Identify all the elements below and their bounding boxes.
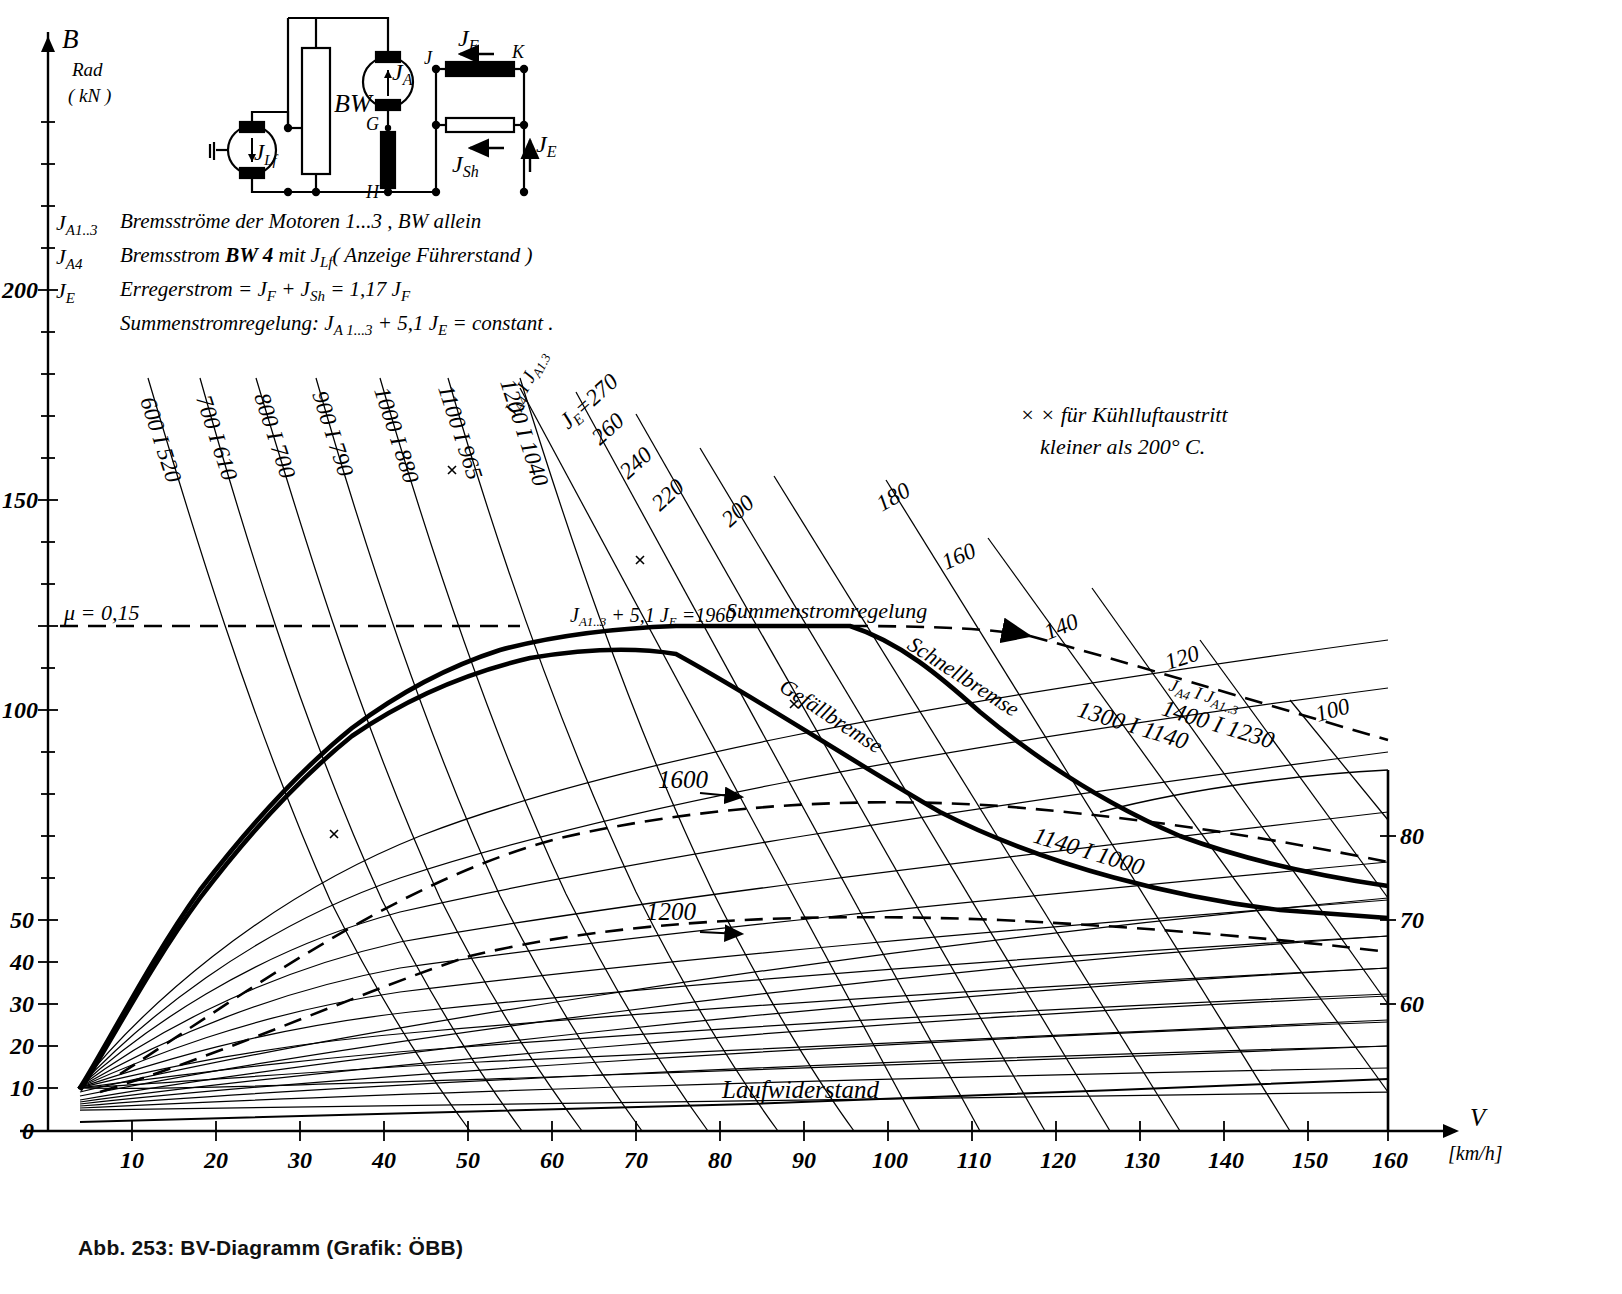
svg-text:70: 70 — [1400, 907, 1424, 933]
je-label-180: 180 — [872, 477, 915, 516]
curve-label-700-610: 700 I 610 — [191, 392, 242, 484]
y-axis-arrowhead — [41, 36, 55, 52]
curve-label-1100-965: 1100 I 965 — [433, 382, 487, 483]
svg-text:30: 30 — [9, 991, 34, 1017]
cooling-note-line2: kleiner als 200° C. — [1040, 434, 1205, 459]
legend-text-3: Summenstromregelung: JA 1...3 + 5,1 JE =… — [120, 311, 554, 338]
circuit-node-h: H — [365, 182, 380, 202]
axes — [20, 32, 1459, 1138]
sum-1200-dashed — [100, 917, 1388, 1092]
schnellbremse-label: Schnellbremse — [903, 631, 1024, 722]
legend-text-0: Bremsströme der Motoren 1...3 , BW allei… — [120, 209, 481, 233]
svg-text:50: 50 — [10, 907, 34, 933]
circuit-node-j: J — [424, 48, 433, 68]
cooling-note: × × für Kühlluftaustritt kleiner als 200… — [1020, 402, 1228, 459]
curve-label-600-520: 600 I 520 — [135, 394, 186, 486]
excitation-current-curves — [148, 378, 854, 1131]
svg-text:80: 80 — [1400, 823, 1424, 849]
svg-text:130: 130 — [1124, 1147, 1160, 1173]
svg-text:150: 150 — [1292, 1147, 1328, 1173]
legend-symbol-0: JA1..3 — [56, 210, 97, 238]
legend-text-1: Bremsstrom BW 4 mit JLf( Anzeige Führers… — [120, 243, 533, 270]
svg-text:100: 100 — [2, 697, 38, 723]
svg-text:60: 60 — [1400, 991, 1424, 1017]
svg-text:30: 30 — [287, 1147, 312, 1173]
svg-text:110: 110 — [957, 1147, 992, 1173]
svg-text:90: 90 — [792, 1147, 816, 1173]
curve-label-900-790: 900 I 790 — [307, 388, 358, 480]
y-tick-labels: 0 10 20 30 40 50 100 150 200 — [1, 277, 38, 1144]
dashed-label-1200: 1200 — [646, 898, 697, 925]
figure-caption: Abb. 253: BV-Diagramm (Grafik: ÖBB) — [78, 1236, 463, 1260]
circuit-jsh-label: JSh — [452, 151, 479, 180]
svg-text:100: 100 — [872, 1147, 908, 1173]
legend-symbol-1: JA4 — [56, 244, 83, 272]
curve-label-800-700: 800 I 700 — [249, 390, 300, 482]
svg-text:20: 20 — [9, 1033, 34, 1059]
legend-symbol-2: JE — [56, 278, 75, 306]
sum-regulation-label: Summenstromregelung — [726, 598, 927, 623]
svg-text:0: 0 — [22, 1118, 34, 1144]
x-axis-arrowhead — [1443, 1124, 1459, 1138]
armature-curve-labels: 600 I 520 700 I 610 800 I 700 900 I 790 … — [135, 376, 553, 490]
cooling-note-line1: × × für Kühlluftaustritt — [1020, 402, 1228, 427]
circuit-ja-label: JA — [392, 59, 413, 88]
right-tick-labels: 60 70 80 — [1400, 823, 1424, 1017]
circuit-node-g: G — [366, 114, 379, 134]
x-tick-labels: 102030 405060 708090 100110120 130140150… — [120, 1147, 1408, 1173]
mu-label: μ = 0,15 — [63, 600, 139, 625]
je-label-240: 240 — [615, 442, 658, 484]
svg-text:10: 10 — [10, 1075, 34, 1101]
je-label-220: 220 — [647, 474, 690, 516]
sum-eq-label: JA1..3 + 5,1 JE =1960 — [570, 604, 735, 629]
svg-text:80: 80 — [708, 1147, 732, 1173]
svg-text:10: 10 — [120, 1147, 144, 1173]
dashed-label-1600: 1600 — [658, 766, 709, 793]
bv-diagram-figure: B Rad ( kN ) V [km/h] 0 10 20 30 40 50 1… — [0, 0, 1622, 1294]
circuit-jf-label: JF — [458, 25, 479, 54]
je-label-100: 100 — [1312, 693, 1353, 727]
svg-text:60: 60 — [540, 1147, 564, 1173]
circuit-je-label: JE — [536, 131, 557, 160]
je-label-140: 140 — [1041, 608, 1083, 644]
laufwiderstand-label: Laufwiderstand — [721, 1076, 879, 1103]
svg-text:160: 160 — [1372, 1147, 1408, 1173]
svg-text:120: 120 — [1040, 1147, 1076, 1173]
circuit-node-k: K — [511, 42, 525, 62]
legend-text-2: Erregerstrom = JF + JSh = 1,17 JF — [119, 277, 411, 304]
y-axis-symbol: B — [62, 24, 79, 54]
curve-label-1000-880: 1000 I 880 — [369, 384, 424, 487]
x-axis-symbol: V — [1470, 1104, 1488, 1131]
y-axis-sub: Rad — [71, 59, 103, 80]
legend-block: JA1..3 Bremsströme der Motoren 1...3 , B… — [56, 209, 554, 338]
y-axis-unit: ( kN ) — [68, 85, 111, 107]
svg-text:70: 70 — [624, 1147, 648, 1173]
x-axis-unit: [km/h] — [1448, 1142, 1502, 1164]
circuit-labels: BW JA JLf JF JSh JE J K G H — [254, 25, 557, 202]
svg-text:40: 40 — [9, 949, 34, 975]
je-label-200: 200 — [717, 490, 760, 532]
svg-text:40: 40 — [371, 1147, 396, 1173]
diagram-svg: B Rad ( kN ) V [km/h] 0 10 20 30 40 50 1… — [0, 0, 1622, 1294]
je-label-160: 160 — [938, 537, 980, 574]
schnellbremse-label-group: Schnellbremse — [903, 631, 1024, 722]
svg-text:200: 200 — [1, 277, 38, 303]
je-label-120: 120 — [1162, 640, 1203, 675]
svg-text:50: 50 — [456, 1147, 480, 1173]
svg-text:140: 140 — [1208, 1147, 1244, 1173]
svg-text:20: 20 — [203, 1147, 228, 1173]
svg-text:150: 150 — [2, 487, 38, 513]
